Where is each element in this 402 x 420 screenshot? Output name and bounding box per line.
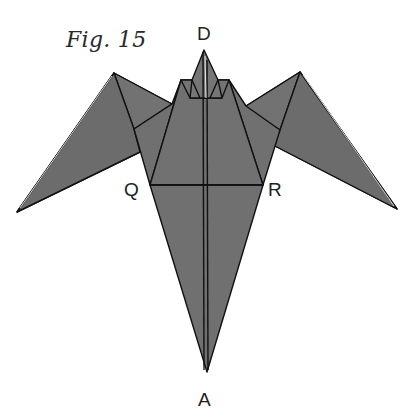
left-wing-outer	[17, 73, 140, 212]
origami-diagram	[0, 0, 402, 420]
figure-caption: Fig. 15	[66, 27, 146, 52]
label-a: A	[198, 390, 211, 409]
label-r: R	[268, 180, 282, 199]
label-d: D	[197, 24, 211, 43]
label-q: Q	[124, 180, 139, 199]
tail-kite	[150, 185, 263, 372]
